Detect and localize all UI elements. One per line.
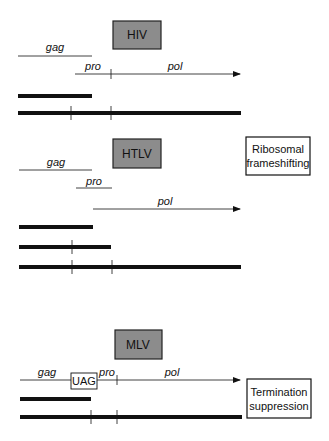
uag-stop-codon-label: UAG: [72, 375, 96, 387]
termination-suppression-line1: Termination: [251, 386, 308, 398]
ribosomal-frameshifting-line1: Ribosomal: [252, 143, 304, 155]
htlv-pol-label: pol: [157, 195, 173, 207]
mlv-gag-label: gag: [38, 366, 57, 378]
ribosomal-frameshifting-line2: frameshifting: [247, 157, 310, 169]
mlv-virus-label: MLV: [126, 338, 150, 352]
termination-suppression-box: [247, 379, 311, 418]
hiv-pol-label: pol: [167, 60, 183, 72]
mlv-pro-label: pro: [98, 366, 115, 378]
frameshift-diagram: HIV gag pro pol HTLV Ribosomal frameshif…: [0, 0, 329, 441]
hiv-gag-label: gag: [46, 41, 65, 53]
termination-suppression-line2: suppression: [249, 400, 308, 412]
htlv-section: HTLV Ribosomal frameshifting gag pro pol: [19, 137, 310, 274]
hiv-virus-label: HIV: [127, 28, 147, 42]
mlv-section: MLV gag pro pol UAG Termination suppress…: [20, 330, 311, 424]
htlv-virus-label: HTLV: [122, 147, 152, 161]
hiv-section: HIV gag pro pol: [18, 21, 241, 120]
htlv-pro-label: pro: [85, 175, 102, 187]
mlv-pol-label: pol: [164, 366, 180, 378]
hiv-pro-label: pro: [84, 60, 101, 72]
htlv-gag-label: gag: [47, 156, 66, 168]
